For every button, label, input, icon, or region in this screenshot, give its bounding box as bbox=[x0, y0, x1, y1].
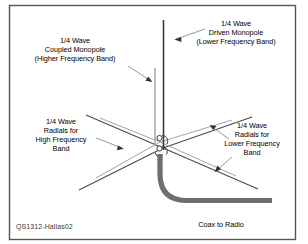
label-coupled-monopole: 1/4 Wave Coupled Monopole (Higher Freque… bbox=[13, 36, 137, 63]
figure-page: 1/4 Wave Coupled Monopole (Higher Freque… bbox=[0, 0, 308, 244]
hub-insulator-upper bbox=[157, 135, 162, 140]
label-coax-to-radio: Coax to Radio bbox=[168, 220, 274, 229]
hub-insulator-lower bbox=[157, 146, 162, 151]
label-radials-high-frequency: 1/4 Wave Radials for High Frequency Band bbox=[20, 117, 102, 153]
label-radials-lower-frequency: 1/4 Wave Radials for Lower Frequency Ban… bbox=[208, 121, 296, 157]
figure-caption: QS1312-Hallas02 bbox=[16, 223, 73, 230]
label-driven-monopole: 1/4 Wave Driven Monopole (Lower Frequenc… bbox=[176, 19, 296, 46]
